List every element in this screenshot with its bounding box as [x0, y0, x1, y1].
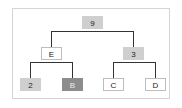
edge-left-left-vertical — [30, 62, 31, 78]
tree-node-right-left: C — [103, 78, 124, 91]
edge-root-right-vertical — [133, 31, 134, 47]
edge-right-left-vertical — [113, 62, 114, 78]
edge-left-horizontal — [30, 62, 73, 63]
tree-node-left-right: B — [62, 78, 83, 91]
edge-right-horizontal — [113, 62, 156, 63]
tree-node-left: E — [41, 47, 62, 60]
tree-node-right: 3 — [123, 47, 144, 60]
tree-node-right-right: D — [145, 78, 166, 91]
edge-root-left-vertical — [51, 31, 52, 47]
edge-left-right-vertical — [72, 62, 73, 78]
tree-node-root: 9 — [82, 16, 103, 29]
edge-right-right-vertical — [155, 62, 156, 78]
tree-node-left-left: 2 — [20, 78, 41, 91]
edge-root-horizontal — [51, 31, 134, 32]
